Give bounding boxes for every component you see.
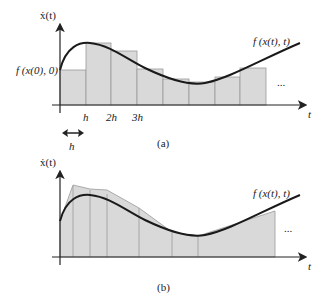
step-label: h [69, 140, 75, 152]
curve-label-a: f (x(t), t) [253, 35, 290, 48]
ellipsis-a: ... [277, 76, 286, 88]
diagram-canvas: ẋ(t) f (x(0), 0) f (x(t), t) ... t h 2h … [0, 0, 327, 303]
rectangles-a [60, 43, 266, 105]
y-label-a: ẋ(t) [40, 9, 56, 22]
initial-label: f (x(0), 0) [16, 64, 58, 77]
step-arrow [62, 129, 84, 137]
x-label-b: t [308, 260, 312, 272]
ellipsis-b: ... [284, 222, 293, 234]
tick-3h: 3h [131, 111, 144, 123]
tick-2h: 2h [106, 111, 118, 123]
tick-h: h [83, 111, 89, 123]
x-label-a: t [308, 108, 312, 120]
y-label-b: ẋ(t) [40, 156, 56, 169]
curve-label-b: f (x(t), t) [253, 187, 290, 200]
caption-b: (b) [157, 281, 170, 294]
panel-a: ẋ(t) f (x(0), 0) f (x(t), t) ... t h 2h … [16, 9, 312, 152]
panel-b: ẋ(t) f (x(t), t) ... t (b) [40, 156, 312, 294]
caption-a: (a) [157, 137, 170, 150]
